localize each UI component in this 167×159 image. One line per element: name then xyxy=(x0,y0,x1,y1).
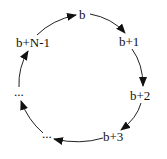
cycle-diagram: b b+1 b+2 b+3 ... ... b+N-1 xyxy=(0,0,167,159)
node-label-ellipsis-bottom: ... xyxy=(42,126,52,141)
edge-ellipsis-to-bn1 xyxy=(19,51,28,87)
edge-b3-to-ellipsis xyxy=(54,138,103,142)
node-label-b-plus-2: b+2 xyxy=(130,88,150,103)
edge-ellipsis-to-ellipsis xyxy=(21,101,43,133)
edge-b1-to-b2 xyxy=(132,49,143,86)
edge-b2-to-b3 xyxy=(121,103,141,130)
node-label-ellipsis-left: ... xyxy=(14,84,24,99)
node-label-b: b xyxy=(79,7,86,22)
edge-b-to-b1 xyxy=(90,14,125,33)
node-label-b-plus-3: b+3 xyxy=(103,129,123,144)
node-label-b-plus-1: b+1 xyxy=(119,34,139,49)
edge-bn1-to-b xyxy=(37,15,76,35)
node-label-b-plus-n-minus-1: b+N-1 xyxy=(16,35,50,50)
